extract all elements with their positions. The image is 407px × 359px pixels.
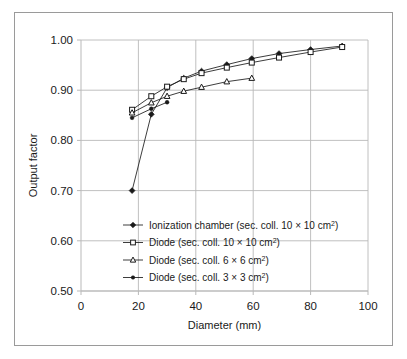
marker-triangle bbox=[249, 75, 255, 80]
x-tick-label: 100 bbox=[358, 300, 377, 312]
marker-square bbox=[340, 45, 345, 50]
y-tick-label: 0.60 bbox=[51, 235, 73, 247]
marker-square bbox=[131, 240, 136, 245]
marker-square bbox=[249, 60, 254, 65]
marker-square bbox=[149, 94, 154, 99]
y-axis-title: Output factor bbox=[27, 133, 39, 197]
marker-square bbox=[181, 77, 186, 82]
marker-dot bbox=[130, 116, 134, 120]
figure-frame: 0.500.600.700.800.901.00020406080100Diam… bbox=[14, 12, 393, 346]
figure-container: 0.500.600.700.800.901.00020406080100Diam… bbox=[0, 0, 407, 359]
legend-label: Diode (sec. coll. 6 × 6 cm2) bbox=[149, 255, 269, 266]
marker-diamond bbox=[130, 222, 136, 228]
marker-triangle bbox=[130, 257, 135, 262]
marker-square bbox=[277, 55, 282, 60]
marker-square bbox=[308, 50, 313, 55]
legend-label: Ionization chamber (sec. coll. 10 × 10 c… bbox=[149, 220, 338, 231]
x-tick-label: 20 bbox=[132, 300, 145, 312]
y-tick-label: 1.00 bbox=[51, 34, 73, 46]
x-tick-label: 40 bbox=[189, 300, 202, 312]
marker-square bbox=[199, 71, 204, 76]
y-tick-label: 0.90 bbox=[51, 84, 73, 96]
x-tick-label: 0 bbox=[78, 300, 84, 312]
y-tick-label: 0.50 bbox=[51, 285, 73, 297]
marker-square bbox=[224, 65, 229, 70]
marker-square bbox=[165, 84, 170, 89]
marker-dot bbox=[165, 100, 169, 104]
marker-dot bbox=[131, 276, 135, 280]
data-series bbox=[129, 75, 254, 115]
y-tick-label: 0.80 bbox=[51, 134, 73, 146]
x-tick-label: 60 bbox=[247, 300, 260, 312]
data-series bbox=[130, 45, 345, 113]
marker-diamond bbox=[129, 188, 135, 194]
grid-lines bbox=[81, 40, 368, 291]
marker-dot bbox=[149, 107, 153, 111]
x-tick-label: 80 bbox=[304, 300, 317, 312]
legend-label: Diode (sec. coll. 10 × 10 cm2) bbox=[149, 237, 280, 248]
x-axis-title: Diameter (mm) bbox=[188, 319, 261, 331]
chart-legend: Ionization chamber (sec. coll. 10 × 10 c… bbox=[123, 220, 338, 284]
chart-canvas: 0.500.600.700.800.901.00020406080100Diam… bbox=[15, 13, 392, 345]
marker-diamond bbox=[148, 111, 154, 117]
y-tick-label: 0.70 bbox=[51, 185, 73, 197]
legend-label: Diode (sec. coll. 3 × 3 cm2) bbox=[149, 272, 269, 283]
